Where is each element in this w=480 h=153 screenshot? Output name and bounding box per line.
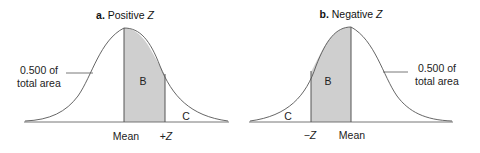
area-label-line1: 0.500 of: [20, 64, 58, 76]
z-label: +Z: [160, 130, 173, 142]
panel-positive-z: a. Positive Z 0.500 of total area B C Me…: [17, 9, 229, 142]
area-label-line2: total area: [17, 77, 61, 89]
normal-curve-diagram: a. Positive Z 0.500 of total area B C Me…: [0, 0, 480, 153]
region-c-label: C: [284, 110, 292, 122]
panel-title: b. Negative Z: [319, 8, 383, 20]
panel-negative-z: b. Negative Z 0.500 of total area B C −Z…: [249, 8, 459, 141]
area-label-line1: 0.500 of: [418, 62, 456, 74]
region-b-label: B: [324, 75, 331, 87]
region-b-label: B: [139, 75, 146, 87]
region-c-label: C: [182, 110, 190, 122]
mean-label: Mean: [339, 129, 365, 141]
panel-title: a. Positive Z: [96, 9, 154, 21]
area-label-line2: total area: [415, 75, 459, 87]
mean-label: Mean: [113, 130, 139, 142]
z-label: −Z: [304, 129, 317, 141]
